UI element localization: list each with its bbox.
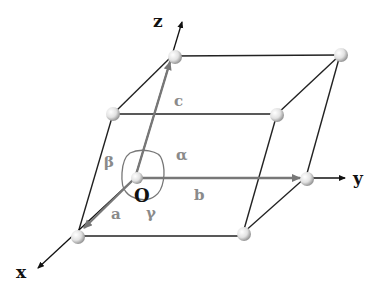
diagram-svg: z y x O c b a α β γ	[0, 0, 382, 297]
atom	[71, 230, 85, 244]
unit-cell-diagram: z y x O c b a α β γ	[0, 0, 382, 297]
x-axis-label: x	[16, 262, 27, 282]
edge-bottom-right	[243, 177, 306, 233]
vector-a-label: a	[111, 205, 121, 223]
atom	[334, 48, 348, 62]
atom	[270, 108, 284, 122]
atom	[168, 50, 182, 64]
vector-c-label: c	[174, 92, 183, 110]
y-axis-label: y	[352, 168, 364, 188]
origin-label: O	[134, 185, 150, 206]
angle-gamma-label: γ	[146, 204, 156, 222]
edge-back-right-vertical	[306, 55, 340, 177]
edge-front-right-vertical	[243, 114, 277, 233]
vector-b-label: b	[194, 186, 205, 204]
angle-beta-label: β	[104, 153, 114, 171]
vector-c	[135, 62, 170, 178]
z-axis-label: z	[153, 11, 163, 31]
edge-top-back	[172, 55, 340, 56]
atom-origin	[131, 172, 143, 184]
angle-alpha-label: α	[176, 146, 188, 164]
atom	[106, 107, 120, 121]
atom	[300, 172, 314, 186]
atom	[237, 227, 251, 241]
edge-top-right	[277, 55, 340, 114]
axes	[38, 22, 345, 268]
